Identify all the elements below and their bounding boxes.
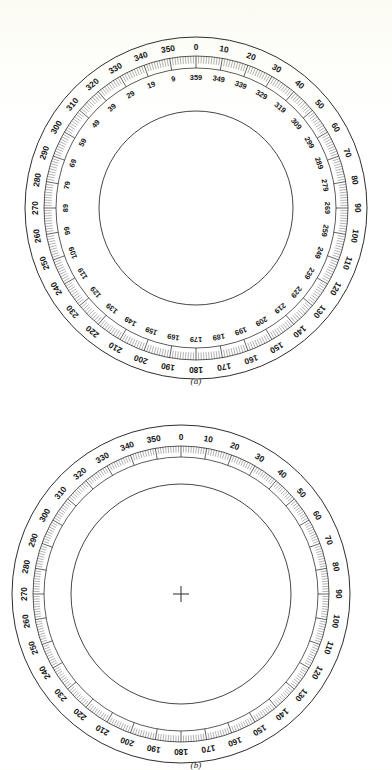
tick-mark [55, 516, 61, 519]
tick-mark [321, 576, 327, 577]
tick-mark [227, 454, 229, 460]
scale-label: 220 [83, 323, 100, 340]
tick-mark [321, 614, 327, 615]
tick-mark [311, 649, 317, 652]
tick-mark [196, 447, 197, 453]
tick-mark [75, 491, 80, 496]
tick-mark [328, 146, 335, 149]
tick-mark [329, 264, 336, 267]
figure-a-drawing-group: 0102030405060708090100110120130140150160… [25, 37, 367, 379]
tick-mark [318, 628, 324, 630]
tick-mark [52, 255, 59, 257]
tick-mark [243, 721, 246, 727]
tick-mark [134, 340, 137, 347]
tick-mark [107, 466, 113, 476]
tick-mark [39, 553, 45, 555]
tick-mark [45, 189, 52, 190]
tick-mark [325, 274, 332, 277]
tick-mark [241, 345, 243, 352]
scale-label: 239 [302, 266, 316, 281]
scale-label: 210 [93, 722, 110, 738]
tick-mark [201, 447, 202, 453]
tick-mark [64, 132, 74, 138]
tick-mark [241, 722, 244, 728]
scale-label: 190 [160, 361, 176, 373]
scale-label: 70 [341, 147, 354, 159]
tick-mark [336, 243, 343, 245]
scale-label: 310 [52, 484, 69, 501]
tick-mark [86, 699, 93, 707]
tick-mark [340, 221, 347, 222]
tick-mark [75, 692, 80, 697]
tick-mark [177, 351, 178, 358]
tick-mark [46, 534, 52, 537]
tick-mark [339, 187, 346, 188]
tick-mark [215, 731, 217, 737]
tick-mark [333, 253, 340, 255]
tick-mark [114, 720, 117, 726]
tick-mark [307, 658, 313, 661]
scale-label: 290 [26, 532, 40, 549]
scale-label: 130 [311, 303, 328, 320]
scale-label: 69 [67, 158, 78, 169]
tick-mark [34, 579, 40, 580]
tick-mark [45, 192, 52, 193]
tick-mark [148, 732, 149, 738]
tick-mark [238, 346, 240, 353]
tick-mark [313, 645, 319, 647]
scale-label: 120 [328, 280, 344, 297]
tick-mark [38, 631, 44, 633]
tick-mark [49, 171, 56, 173]
scale-label: 349 [212, 73, 226, 84]
tick-mark [284, 691, 289, 695]
scale-label: 260 [20, 613, 32, 629]
tick-mark [334, 232, 346, 234]
tick-mark [312, 647, 318, 649]
tick-mark [301, 516, 307, 519]
tick-mark [321, 571, 327, 572]
tick-mark [281, 489, 286, 494]
tick-mark [64, 503, 69, 507]
tick-mark [213, 732, 214, 738]
tick-mark [142, 66, 145, 73]
tick-mark [53, 663, 63, 669]
tick-mark [262, 473, 266, 478]
tick-mark [167, 350, 168, 357]
tick-mark [164, 349, 166, 356]
tick-mark [50, 166, 57, 168]
tick-mark [103, 714, 106, 720]
tick-mark [231, 61, 233, 68]
tick-mark [250, 465, 253, 471]
scale-label: 99 [62, 226, 72, 236]
tick-mark [224, 59, 225, 66]
tick-mark [316, 638, 322, 640]
scale-label: 350 [160, 43, 176, 55]
tick-mark [300, 663, 310, 669]
tick-mark [114, 462, 117, 468]
tick-mark [328, 267, 335, 270]
scale-label: 140 [291, 323, 308, 340]
tick-mark [264, 708, 268, 713]
inner-reciprocal-scale: 3593493393293193092992892792692592492392… [61, 73, 332, 344]
tick-mark [311, 536, 317, 539]
tick-mark [51, 161, 58, 163]
tick-mark [317, 633, 323, 635]
tick-marks [44, 56, 348, 360]
tick-mark [86, 481, 93, 489]
tick-mark [340, 197, 347, 198]
tick-mark [293, 681, 298, 685]
tick-mark [232, 726, 234, 732]
scale-label: 0 [179, 432, 184, 442]
tick-mark [320, 621, 326, 622]
tick-mark [300, 520, 310, 526]
tick-mark [319, 563, 325, 564]
scale-label: 109 [67, 245, 80, 260]
tick-mark [258, 470, 262, 475]
center-crosshair [173, 586, 189, 602]
tick-mark [62, 137, 69, 141]
tick-mark [45, 649, 51, 652]
tick-mark [317, 553, 323, 555]
tick-mark [38, 556, 44, 558]
tick-mark [145, 450, 147, 456]
tick-mark [318, 558, 324, 560]
